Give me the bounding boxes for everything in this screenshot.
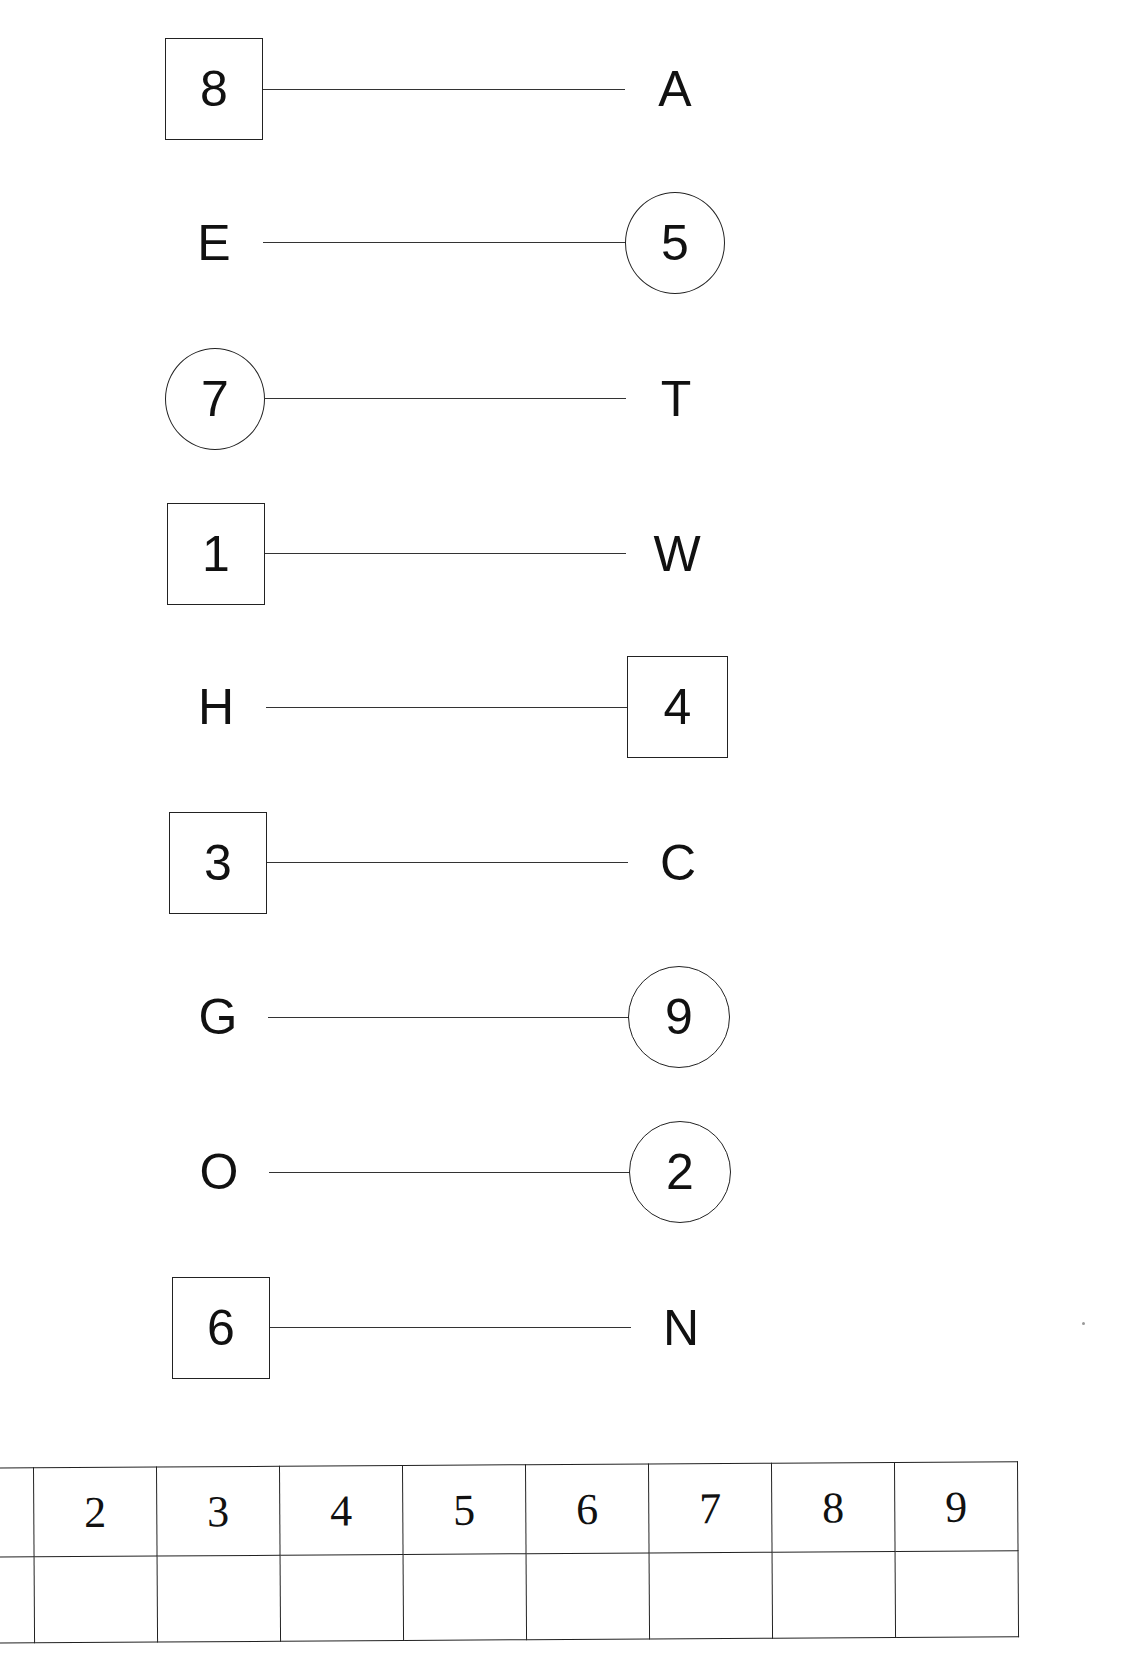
- right-node-circle: 2: [629, 1121, 731, 1223]
- node-label: A: [658, 60, 691, 118]
- connector-line: [266, 707, 628, 708]
- left-node-letter: O: [170, 1121, 268, 1223]
- left-node-letter: E: [165, 192, 263, 294]
- pair-row-2: E 5: [0, 192, 1141, 302]
- key-header-cell: 3: [156, 1466, 280, 1556]
- left-node-circle: 7: [165, 348, 265, 450]
- answer-key-table: 1 2 3 4 5 6 7 8 9: [0, 1461, 1019, 1644]
- key-answer-cell[interactable]: [649, 1552, 773, 1639]
- connector-line: [269, 1172, 630, 1173]
- right-node-circle: 5: [625, 192, 725, 294]
- node-label: T: [661, 370, 692, 428]
- node-label: W: [653, 525, 700, 583]
- pair-row-6: 3 C: [0, 812, 1141, 922]
- right-node-letter: A: [626, 38, 724, 140]
- node-label: C: [660, 834, 696, 892]
- left-node-box: 1: [167, 503, 265, 605]
- node-label: 2: [666, 1143, 694, 1201]
- key-header-cell: 6: [525, 1464, 649, 1554]
- node-label: G: [199, 988, 238, 1046]
- connector-line: [267, 862, 628, 863]
- node-label: 8: [200, 60, 228, 118]
- pair-row-3: 7 T: [0, 348, 1141, 458]
- left-node-letter: G: [169, 966, 267, 1068]
- node-label: 7: [201, 370, 229, 428]
- key-header-cell: 5: [402, 1465, 526, 1555]
- pair-row-8: O 2: [0, 1121, 1141, 1231]
- key-answer-cell[interactable]: [157, 1555, 281, 1642]
- connector-line: [270, 1327, 631, 1328]
- key-header-cell: 4: [279, 1465, 403, 1555]
- node-label: 1: [202, 525, 230, 583]
- node-label: H: [198, 678, 234, 736]
- pair-row-1: 8 A: [0, 38, 1141, 148]
- node-label: E: [197, 214, 230, 272]
- node-label: O: [200, 1143, 239, 1201]
- left-node-box: 6: [172, 1277, 270, 1379]
- connector-line: [264, 398, 626, 399]
- connector-line: [265, 553, 626, 554]
- key-header-cell: 2: [34, 1467, 158, 1557]
- connector-line: [263, 89, 625, 90]
- node-label: 9: [665, 988, 693, 1046]
- connector-line: [263, 242, 626, 243]
- key-answer-cell[interactable]: [526, 1553, 650, 1640]
- pair-row-5: H 4: [0, 656, 1141, 766]
- right-node-letter: T: [627, 348, 725, 450]
- scan-speck: [1082, 1322, 1085, 1325]
- key-answer-row: [0, 1551, 1019, 1644]
- key-answer-cell[interactable]: [895, 1551, 1019, 1638]
- connector-line: [268, 1017, 629, 1018]
- right-node-letter: N: [632, 1277, 730, 1379]
- key-answer-cell[interactable]: [772, 1551, 896, 1638]
- node-label: 6: [207, 1299, 235, 1357]
- key-header-row: 1 2 3 4 5 6 7 8 9: [0, 1462, 1018, 1558]
- key-answer-cell[interactable]: [403, 1554, 527, 1641]
- key-answer-cell[interactable]: [34, 1556, 158, 1643]
- pair-row-4: 1 W: [0, 503, 1141, 613]
- node-label: 4: [664, 678, 692, 736]
- right-node-letter: W: [628, 503, 726, 605]
- node-label: 3: [204, 834, 232, 892]
- left-node-letter: H: [167, 656, 265, 758]
- node-label: 5: [661, 214, 689, 272]
- pair-row-9: 6 N: [0, 1277, 1141, 1387]
- right-node-letter: C: [629, 812, 727, 914]
- key-answer-cell[interactable]: [0, 1557, 35, 1644]
- left-node-box: 3: [169, 812, 267, 914]
- key-header-cell: 8: [771, 1462, 895, 1552]
- key-header-cell: 9: [894, 1462, 1018, 1552]
- node-label: N: [663, 1299, 699, 1357]
- key-header-cell: 7: [648, 1463, 772, 1553]
- right-node-circle: 9: [628, 966, 730, 1068]
- key-header-cell: 1: [0, 1468, 34, 1558]
- pair-row-7: G 9: [0, 966, 1141, 1076]
- right-node-box: 4: [627, 656, 728, 758]
- key-answer-cell[interactable]: [280, 1554, 404, 1641]
- left-node-box: 8: [165, 38, 263, 140]
